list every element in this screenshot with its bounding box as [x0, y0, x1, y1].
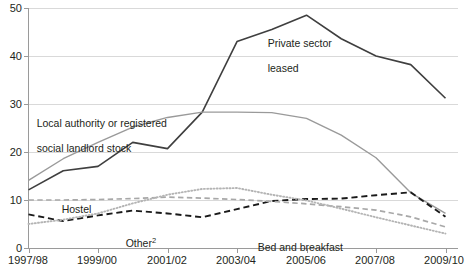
y-tick-label-50: 50 — [0, 3, 22, 14]
y-tick-label-30: 30 — [0, 99, 22, 110]
x-axis-ticks — [30, 249, 447, 254]
annotation-private-sector-leased: Private sector leased — [256, 24, 332, 87]
annotation-other-label: Other — [126, 237, 152, 249]
annotation-hostel: Hostel — [50, 190, 91, 228]
y-tick-label-40: 40 — [0, 51, 22, 62]
line-chart: 50 40 30 20 10 0 1997/98 1999/00 2001/02… — [0, 0, 466, 274]
annotation-other: Other2 — [114, 224, 156, 262]
y-tick-label-10: 10 — [0, 195, 22, 206]
x-tick-label-2007-08: 2007/08 — [340, 255, 410, 266]
x-tick-label-2009-10: 2009/10 — [409, 255, 466, 266]
annotation-bandb-label: Bed and breakfast — [258, 241, 343, 253]
y-tick-label-0: 0 — [0, 243, 22, 254]
annotation-private-line2: leased — [268, 62, 299, 74]
x-tick-label-1997-98: 1997/98 — [0, 255, 63, 266]
annotation-private-line1: Private sector — [268, 37, 332, 49]
annotation-la-line2: social landlord stock — [37, 142, 132, 154]
annotation-la-line1: Local authority or registered — [37, 117, 167, 129]
annotation-bed-and-breakfast: Bed and breakfast — [246, 228, 343, 266]
annotation-la-rsl-stock: Local authority or registered social lan… — [25, 104, 167, 167]
y-tick-label-20: 20 — [0, 147, 22, 158]
annotation-hostel-label: Hostel — [62, 203, 92, 215]
annotation-other-footnote: 2 — [152, 235, 156, 244]
